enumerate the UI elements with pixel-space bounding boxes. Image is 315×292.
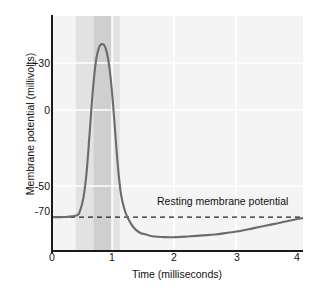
y-axis-line (51, 15, 53, 253)
y-tick-label-neg70: -70 (10, 205, 50, 217)
y-tick-label-30: +30 (10, 57, 50, 69)
plot-area (52, 16, 303, 252)
resting-potential-label: Resting membrane potential (157, 195, 288, 207)
x-tick-label-4: 4 (287, 251, 307, 263)
x-axis-label: Time (milliseconds) (52, 268, 302, 280)
y-tick-label-0: 0 (10, 104, 50, 116)
y-tick-label-neg50: -50 (10, 180, 50, 192)
action-potential-figure: Membrane potential (millivolts) +30 0 -5… (0, 0, 315, 292)
x-tick-label-3: 3 (227, 251, 247, 263)
x-tick-label-2: 2 (164, 251, 184, 263)
x-tick-label-0: 0 (42, 251, 62, 263)
x-tick-label-1: 1 (102, 251, 122, 263)
y-axis-tick-labels: +30 0 -50 -70 (8, 0, 50, 292)
